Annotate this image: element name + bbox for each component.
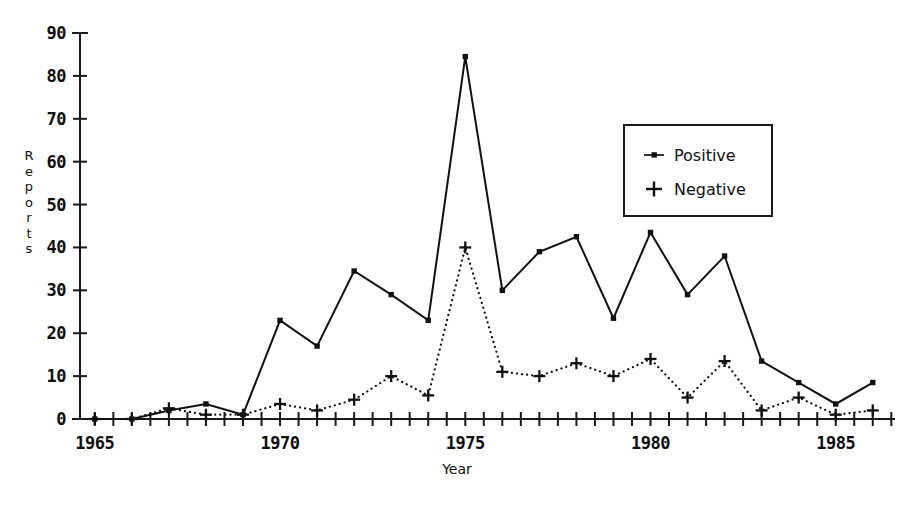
y-tick-label: 70 (2, 111, 66, 128)
data-point-positive (759, 358, 764, 363)
data-point-negative (533, 370, 545, 382)
data-point-positive (463, 54, 468, 59)
data-point-negative (163, 402, 175, 414)
y-tick-label: 30 (2, 282, 66, 299)
data-point-negative (348, 394, 360, 406)
data-series (89, 54, 879, 425)
data-point-positive (611, 316, 616, 321)
y-tick-label: 60 (2, 154, 66, 171)
negative-plus-marker-icon (643, 181, 665, 197)
data-point-positive (870, 380, 875, 385)
legend-item-negative: Negative (643, 179, 746, 199)
legend-label-positive: Positive (674, 146, 736, 165)
x-tick-label: 1970 (230, 435, 330, 452)
y-tick-label: 50 (2, 197, 66, 214)
y-tick-label: 40 (2, 239, 66, 256)
data-point-positive (537, 249, 542, 254)
data-point-positive (574, 234, 579, 239)
data-point-negative (756, 404, 768, 416)
y-tick-label: 0 (2, 411, 66, 428)
x-tick-label: 1975 (415, 435, 515, 452)
data-point-negative (867, 404, 879, 416)
data-point-positive (388, 292, 393, 297)
data-point-positive (648, 230, 653, 235)
data-point-negative (311, 404, 323, 416)
chart-figure: Reports 0102030405060708090 196519701975… (0, 0, 914, 509)
data-point-negative (385, 370, 397, 382)
data-point-positive (500, 288, 505, 293)
data-point-positive (685, 292, 690, 297)
positive-line-marker-icon (643, 147, 665, 163)
data-point-negative (607, 370, 619, 382)
y-tick-label: 90 (2, 25, 66, 42)
chart-legend: Positive Negative (623, 124, 773, 217)
y-tick-label: 80 (2, 68, 66, 85)
y-axis-title-char: p (21, 179, 37, 195)
data-point-negative (719, 355, 731, 367)
data-point-positive (277, 318, 282, 323)
y-tick-label: 10 (2, 368, 66, 385)
data-point-negative (459, 241, 471, 253)
x-tick-label: 1965 (45, 435, 145, 452)
data-point-negative (89, 413, 101, 425)
x-tick-label: 1985 (786, 435, 886, 452)
data-point-negative (793, 392, 805, 404)
data-point-negative (496, 366, 508, 378)
data-point-negative (422, 389, 434, 401)
series-line-positive (95, 57, 873, 419)
data-point-positive (796, 380, 801, 385)
data-point-positive (314, 343, 319, 348)
series-line-negative (95, 247, 873, 419)
data-point-negative (570, 357, 582, 369)
data-point-positive (203, 401, 208, 406)
data-point-negative (274, 398, 286, 410)
legend-label-negative: Negative (674, 180, 746, 199)
data-point-positive (426, 318, 431, 323)
y-tick-label: 20 (2, 325, 66, 342)
legend-item-positive: Positive (643, 145, 736, 165)
x-tick-label: 1980 (601, 435, 701, 452)
data-point-positive (351, 268, 356, 273)
data-point-positive (833, 401, 838, 406)
x-axis-title: Year (0, 461, 914, 477)
data-point-positive (722, 253, 727, 258)
data-point-negative (126, 413, 138, 425)
